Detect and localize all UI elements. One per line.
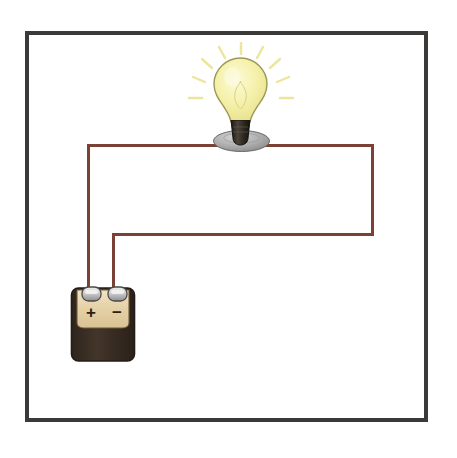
light-bulb	[185, 42, 297, 154]
bulb-glass	[212, 57, 269, 127]
screw-base-body	[231, 120, 250, 145]
battery: + −	[70, 285, 136, 363]
wire-right-vertical	[371, 144, 374, 236]
wire-bottom-horizontal	[112, 233, 374, 236]
battery-negative-label: −	[112, 303, 122, 322]
bulb-screw-base	[230, 120, 251, 146]
wire-left-vertical	[87, 144, 90, 294]
bulb-highlight	[224, 67, 240, 87]
circuit-diagram-canvas: + −	[0, 0, 457, 458]
terminal-negative	[108, 287, 127, 301]
terminal-positive	[82, 287, 101, 301]
battery-positive-label: +	[86, 303, 96, 322]
bulb-glass-outline	[214, 58, 267, 122]
